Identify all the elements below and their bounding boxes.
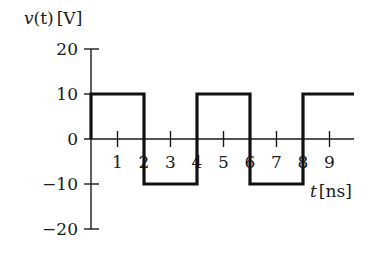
y-axis-label: v(t)[V] (24, 8, 82, 28)
y-tick-label: 10 (56, 84, 78, 104)
y-tick-label: −20 (42, 219, 78, 239)
y-tick-label: 0 (67, 129, 78, 149)
chart-svg: 20100−10−20 123456789 v(t)[V] t[ns] (0, 0, 376, 254)
x-tick-label: 9 (324, 152, 335, 172)
x-tick-label: 3 (165, 152, 176, 172)
x-tick-label: 1 (112, 152, 123, 172)
x-axis-label: t[ns] (310, 181, 352, 201)
x-tick-label: 5 (218, 152, 229, 172)
y-tick-label: −10 (42, 174, 78, 194)
x-tick-label: 7 (271, 152, 282, 172)
y-tick-label: 20 (56, 39, 78, 59)
